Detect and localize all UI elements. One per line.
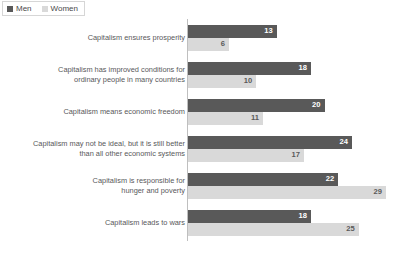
bar-value-label: 10 [244, 77, 256, 85]
category-label: Capitalism ensures prosperity [13, 33, 185, 43]
bar-women[interactable]: 11 [188, 112, 263, 125]
legend-item-men: Men [7, 5, 32, 13]
category-label: Capitalism means economic freedom [13, 107, 185, 117]
bar-value-label: 24 [339, 138, 351, 146]
bar-row: 13 [188, 25, 386, 38]
bar-women[interactable]: 6 [188, 38, 229, 51]
bar-value-label: 17 [292, 151, 304, 159]
square-swatch-icon [42, 6, 48, 12]
bar-men[interactable]: 24 [188, 136, 352, 149]
bar-row: 29 [188, 186, 386, 199]
category-label: Capitalism is responsible for hunger and… [13, 176, 185, 195]
bar-value-label: 6 [221, 40, 229, 48]
bar-group: Capitalism is responsible for hunger and… [0, 173, 394, 199]
bar-row: 17 [188, 149, 386, 162]
bar-men[interactable]: 18 [188, 210, 311, 223]
bar-group: Capitalism leads to wars1825 [0, 210, 394, 236]
bar-row: 22 [188, 173, 386, 186]
bar-value-label: 18 [298, 64, 310, 72]
category-label: Capitalism may not be ideal, but it is s… [13, 139, 185, 158]
bar-row: 25 [188, 223, 386, 236]
bar-row: 24 [188, 136, 386, 149]
bar-value-label: 29 [374, 188, 386, 196]
bar-value-label: 13 [264, 27, 276, 35]
bar-women[interactable]: 29 [188, 186, 386, 199]
bar-men[interactable]: 18 [188, 62, 311, 75]
bar-row: 18 [188, 210, 386, 223]
chart-footnote [2, 246, 252, 255]
bar-women[interactable]: 17 [188, 149, 304, 162]
bar-value-label: 20 [312, 101, 324, 109]
bar-men[interactable]: 20 [188, 99, 325, 112]
chart-plot-area: Capitalism ensures prosperity136Capitali… [0, 19, 394, 241]
legend-item-women: Women [42, 5, 78, 13]
square-swatch-icon [7, 6, 13, 12]
category-label: Capitalism leads to wars [13, 218, 185, 228]
bar-row: 18 [188, 62, 386, 75]
bar-row: 6 [188, 38, 386, 51]
bar-value-label: 11 [251, 114, 263, 122]
bar-women[interactable]: 25 [188, 223, 359, 236]
category-label: Capitalism has improved conditions for o… [13, 65, 185, 84]
bar-value-label: 18 [298, 212, 310, 220]
value-axis-line [187, 19, 188, 241]
bar-group: Capitalism may not be ideal, but it is s… [0, 136, 394, 162]
bar-men[interactable]: 22 [188, 173, 338, 186]
bar-group: Capitalism has improved conditions for o… [0, 62, 394, 88]
legend-label-women: Women [51, 5, 78, 13]
bar-row: 10 [188, 75, 386, 88]
chart-legend: Men Women [2, 1, 85, 16]
bar-men[interactable]: 13 [188, 25, 277, 38]
legend-label-men: Men [16, 5, 32, 13]
bar-row: 20 [188, 99, 386, 112]
bar-value-label: 25 [346, 225, 358, 233]
bar-row: 11 [188, 112, 386, 125]
bar-value-label: 22 [326, 175, 338, 183]
bar-group: Capitalism means economic freedom2011 [0, 99, 394, 125]
bar-women[interactable]: 10 [188, 75, 256, 88]
bar-group: Capitalism ensures prosperity136 [0, 25, 394, 51]
